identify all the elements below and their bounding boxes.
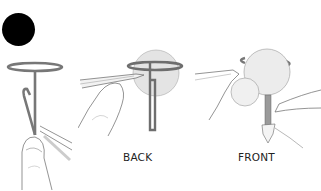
label-front: FRONT [238,151,275,163]
label-back: BACK [123,151,152,163]
